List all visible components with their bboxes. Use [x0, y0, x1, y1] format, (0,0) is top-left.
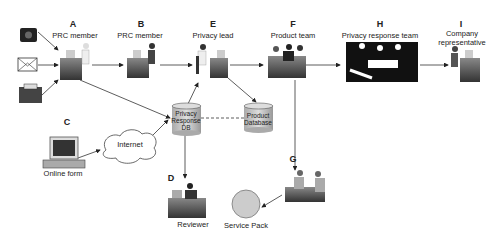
- node-d-label: Reviewer: [177, 220, 208, 229]
- node-i-label-line1: Company: [446, 29, 478, 38]
- node-h-label: Privacy response team: [342, 31, 418, 40]
- service-pack-disc: [232, 190, 260, 218]
- prc-member-a-figure: [60, 43, 89, 80]
- node-c-label: Online form: [44, 169, 83, 178]
- mail-icon: [18, 58, 37, 71]
- node-i-letter: I: [460, 19, 463, 29]
- node-b-letter: B: [138, 19, 145, 29]
- node-g-letter: G: [289, 154, 296, 164]
- computer-icon: [43, 137, 85, 168]
- privacy-response-team-figure: [346, 42, 418, 82]
- node-a-label: PRC member: [52, 31, 97, 40]
- node-h-letter: H: [377, 19, 384, 29]
- reviewer-figure: [168, 183, 206, 218]
- node-c-letter: C: [64, 117, 71, 127]
- node-d-letter: D: [168, 173, 175, 183]
- service-team-figure: [285, 170, 325, 202]
- node-e-letter: E: [210, 19, 216, 29]
- prc-member-b-figure: [127, 43, 155, 78]
- product-db-label-2: Database: [244, 119, 272, 127]
- service-pack-label: Service Pack: [224, 221, 268, 230]
- node-a-letter: A: [70, 19, 77, 29]
- product-team-figure: [268, 44, 306, 78]
- internet-label: Internet: [117, 140, 142, 149]
- node-i-label-line2: representative: [438, 38, 486, 47]
- telephone-icon: [20, 28, 37, 42]
- privacy-lead-figure: [196, 44, 228, 78]
- node-f-label: Product team: [271, 31, 316, 40]
- privacy-db-label-3: DB: [181, 124, 190, 132]
- company-representative-figure: [451, 46, 480, 82]
- node-f-letter: F: [290, 19, 296, 29]
- fax-icon: [19, 84, 42, 103]
- node-b-label: PRC member: [117, 31, 162, 40]
- node-e-label: Privacy lead: [193, 31, 234, 40]
